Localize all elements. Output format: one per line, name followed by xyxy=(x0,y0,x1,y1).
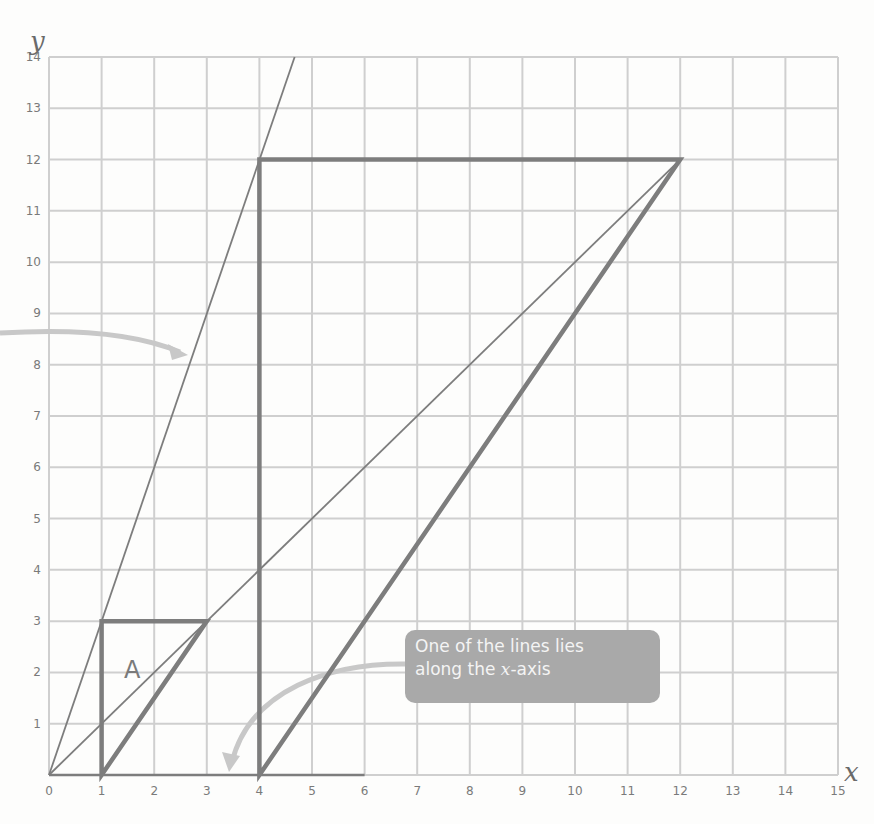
y-axis-label: y xyxy=(29,26,45,56)
y-tick-label: 11 xyxy=(26,204,41,218)
pointer-arrow-left xyxy=(0,331,180,352)
arrowhead-left xyxy=(168,344,188,360)
x-tick-label: 3 xyxy=(203,784,211,798)
callout-text: along the xyxy=(415,659,501,679)
callout-text: -axis xyxy=(510,659,550,679)
x-axis-label: x xyxy=(844,757,859,787)
x-tick-label: 1 xyxy=(98,784,106,798)
callout-line-2: along the x-axis xyxy=(415,658,650,681)
x-tick-label: 4 xyxy=(256,784,264,798)
x-tick-label: 7 xyxy=(413,784,421,798)
y-tick-label: 9 xyxy=(33,306,41,320)
x-tick-label: 11 xyxy=(620,784,635,798)
y-tick-label: 6 xyxy=(33,460,41,474)
callout-x-axis-note: One of the lines lies along the x-axis xyxy=(405,630,660,703)
callout-line-1: One of the lines lies xyxy=(415,635,650,658)
y-tick-label: 7 xyxy=(33,409,41,423)
x-tick-label: 2 xyxy=(150,784,158,798)
callout-variable: x xyxy=(501,659,511,679)
y-tick-label: 13 xyxy=(26,101,41,115)
arrowhead-bottom xyxy=(222,752,240,772)
y-tick-label: 4 xyxy=(33,563,41,577)
x-tick-label: 13 xyxy=(725,784,740,798)
x-tick-label: 9 xyxy=(519,784,527,798)
y-tick-label: 5 xyxy=(33,512,41,526)
x-tick-label: 5 xyxy=(308,784,316,798)
x-tick-label: 0 xyxy=(45,784,53,798)
y-tick-label: 10 xyxy=(26,255,41,269)
x-tick-label: 12 xyxy=(673,784,688,798)
x-tick-label: 6 xyxy=(361,784,369,798)
y-tick-label: 3 xyxy=(33,614,41,628)
y-tick-label: 2 xyxy=(33,665,41,679)
shape-a-label: A xyxy=(124,656,141,684)
x-tick-label: 10 xyxy=(567,784,582,798)
x-tick-label: 14 xyxy=(778,784,793,798)
x-tick-label: 8 xyxy=(466,784,474,798)
y-tick-label: 12 xyxy=(26,153,41,167)
y-tick-label: 8 xyxy=(33,358,41,372)
y-tick-label: 1 xyxy=(33,717,41,731)
